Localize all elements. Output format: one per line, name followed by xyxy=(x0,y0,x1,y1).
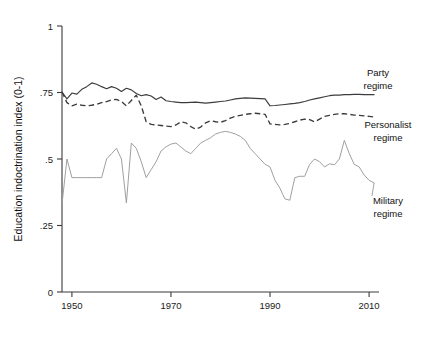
annotation-military-regime-line2: regime xyxy=(373,208,402,219)
x-axis-ticks: 1950197019902010 xyxy=(61,292,379,311)
x-tick-label: 2010 xyxy=(359,300,380,311)
series-line-military-regime xyxy=(62,131,374,204)
annotation-personalist-regime-line1: Personalist xyxy=(365,119,412,130)
indoctrination-line-chart: 0.25.5.751 1950197019902010 Education in… xyxy=(0,0,431,338)
series-line-personalist-regime xyxy=(62,92,374,129)
chart-container: 0.25.5.751 1950197019902010 Education in… xyxy=(0,0,431,338)
y-tick-label: .5 xyxy=(45,154,53,165)
annotation-party-regime-line2: regime xyxy=(363,80,392,91)
x-tick-label: 1970 xyxy=(160,300,181,311)
y-tick-label: .75 xyxy=(40,87,53,98)
annotation-personalist-regime-line2: regime xyxy=(373,132,402,143)
annotation-party-regime-line1: Party xyxy=(367,67,389,78)
series-line-party-regime xyxy=(62,83,374,106)
annotation-military-regime-line1: Military xyxy=(373,195,403,206)
y-axis-title: Education indoctrination index (0-1) xyxy=(12,76,24,241)
y-tick-label: 1 xyxy=(48,21,53,32)
y-tick-label: 0 xyxy=(48,287,53,298)
x-tick-label: 1990 xyxy=(259,300,280,311)
y-tick-label: .25 xyxy=(40,220,53,231)
y-axis-ticks: 0.25.5.751 xyxy=(40,21,62,298)
x-tick-label: 1950 xyxy=(61,300,82,311)
